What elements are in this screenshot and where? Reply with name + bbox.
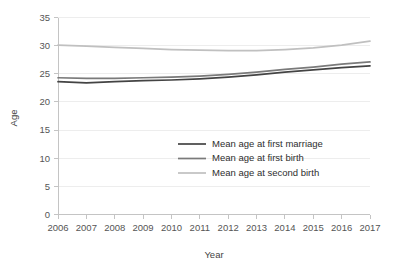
y-tick-label: 5 [45,181,50,192]
x-tick-label: 2010 [161,222,182,233]
y-tick-label: 35 [39,12,50,23]
legend-label: Mean age at second birth [212,167,319,178]
y-tick-label: 30 [39,40,50,51]
x-tick-label: 2006 [47,222,68,233]
y-tick-label: 0 [45,209,50,220]
legend-label: Mean age at first birth [212,152,304,163]
x-tick-label: 2011 [190,222,210,233]
x-tick-label: 2008 [104,222,125,233]
line-chart: 05101520253035 2006200720082009201020112… [0,0,396,268]
y-axis [54,18,58,215]
data-series [58,41,370,83]
chart-legend: Mean age at first marriageMean age at fi… [178,138,323,178]
y-tick-label: 15 [39,124,50,135]
y-axis-title: Age [8,110,19,127]
series-line [58,62,370,78]
x-tick-label: 2012 [218,222,239,233]
x-axis-title: Year [204,249,223,260]
y-tick-label: 10 [39,153,50,164]
y-tick-label: 20 [39,96,50,107]
x-tick-label: 2013 [246,222,267,233]
y-tick-labels: 05101520253035 [39,12,50,220]
x-tick-label: 2007 [76,222,97,233]
chart-container: 05101520253035 2006200720082009201020112… [0,0,396,268]
x-tick-label: 2016 [331,222,352,233]
legend-label: Mean age at first marriage [212,138,323,149]
x-tick-labels: 2006200720082009201020112012201320142015… [47,222,380,233]
x-axis [58,215,370,219]
x-tick-label: 2014 [274,222,295,233]
x-tick-label: 2009 [133,222,154,233]
x-tick-label: 2015 [303,222,324,233]
y-tick-label: 25 [39,68,50,79]
x-tick-label: 2017 [359,222,380,233]
